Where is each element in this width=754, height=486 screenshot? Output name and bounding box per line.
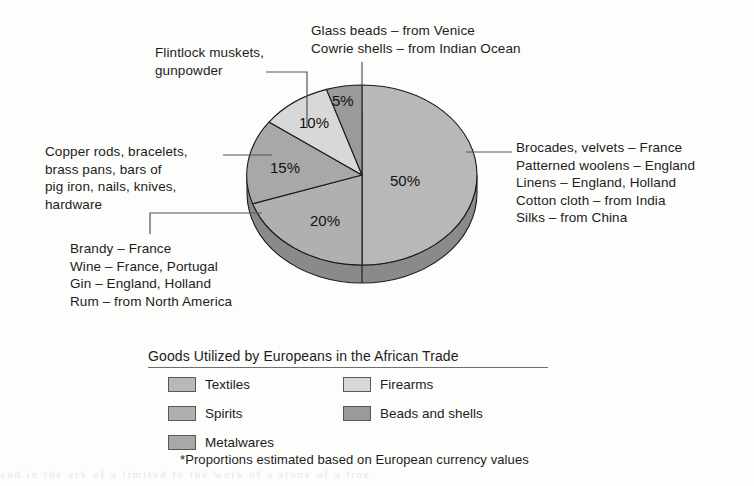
legend-item-beads-and-shells: Beads and shells — [343, 406, 483, 421]
legend-label-firearms: Firearms — [380, 377, 433, 392]
legend-label-textiles: Textiles — [205, 377, 250, 392]
legend-footnote: *Proportions estimated based on European… — [180, 452, 529, 467]
legend-swatch-metalwares — [168, 435, 196, 450]
pie-label-metalwares: 15% — [270, 159, 300, 176]
figure-canvas: 50% 20% 15% 10% 5% Glass beads – from Ve… — [0, 0, 754, 486]
pie-label-firearms: 10% — [299, 114, 329, 131]
legend-title: Goods Utilized by Europeans in the Afric… — [148, 348, 608, 367]
annotation-spirits: Brandy – France Wine – France, Portugal … — [70, 240, 232, 310]
legend-label-spirits: Spirits — [205, 406, 243, 421]
legend-label-metalwares: Metalwares — [205, 435, 274, 450]
legend-swatch-beads-and-shells — [343, 406, 371, 421]
legend-item-metalwares: Metalwares — [168, 435, 274, 450]
legend-item-textiles: Textiles — [168, 377, 250, 392]
annotation-firearms: Flintlock muskets, gunpowder — [155, 44, 264, 79]
legend-item-firearms: Firearms — [343, 377, 433, 392]
legend-swatch-firearms — [343, 377, 371, 392]
pie-label-textiles: 50% — [390, 172, 420, 189]
scan-bleed-artifact: and in the ark of a limited to the work … — [0, 468, 754, 486]
pie-label-beads: 5% — [332, 92, 354, 109]
annotation-textiles: Brocades, velvets – France Patterned woo… — [516, 139, 695, 227]
pie-label-spirits: 20% — [310, 212, 340, 229]
legend-item-spirits: Spirits — [168, 406, 243, 421]
annotation-beads-and-shells: Glass beads – from Venice Cowrie shells … — [311, 22, 521, 57]
legend: Goods Utilized by Europeans in the Afric… — [148, 348, 608, 478]
legend-label-beads-and-shells: Beads and shells — [380, 406, 483, 421]
pie-chart: 50% 20% 15% 10% 5% — [222, 78, 512, 313]
legend-swatch-textiles — [168, 377, 196, 392]
legend-items: Textiles Firearms Spirits Beads and shel… — [148, 377, 608, 459]
legend-divider — [148, 367, 548, 368]
annotation-metalwares: Copper rods, bracelets, brass pans, bars… — [45, 143, 188, 213]
legend-swatch-spirits — [168, 406, 196, 421]
